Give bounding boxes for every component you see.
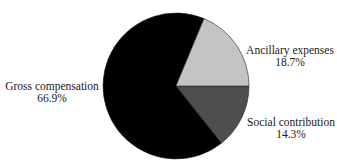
label-social-name: Social contribution (246, 116, 336, 128)
label-gross-compensation: Gross compensation 66.9% (4, 80, 100, 104)
label-ancillary-expenses: Ancillary expenses 18.7% (246, 44, 334, 68)
label-social-contribution: Social contribution 14.3% (246, 116, 336, 140)
label-gross-name: Gross compensation (4, 80, 100, 92)
label-ancillary-name: Ancillary expenses (246, 44, 334, 56)
label-gross-value: 66.9% (4, 92, 100, 104)
label-social-value: 14.3% (246, 128, 336, 140)
label-ancillary-value: 18.7% (246, 56, 334, 68)
